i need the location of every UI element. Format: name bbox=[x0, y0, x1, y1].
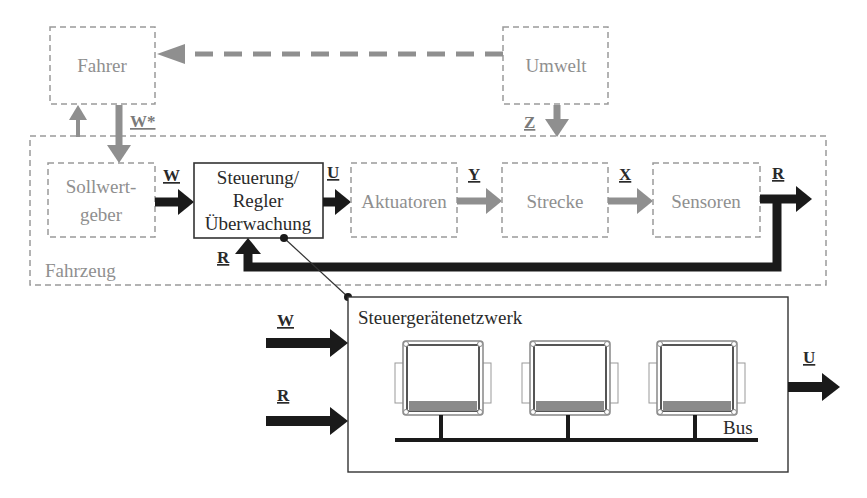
umwelt-label: Umwelt bbox=[525, 55, 587, 76]
sollwertgeber-label-2: geber bbox=[80, 204, 123, 225]
z-arrowhead bbox=[545, 119, 569, 137]
fahrer-label: Fahrer bbox=[77, 55, 127, 76]
ecu-2-icon bbox=[522, 341, 618, 415]
net-r-arrowhead bbox=[330, 407, 348, 435]
u-label: U bbox=[327, 163, 339, 182]
sollwertgeber-label-1: Sollwert- bbox=[66, 176, 137, 197]
steuergeraetenetzwerk-label: Steuergerätenetzwerk bbox=[358, 307, 523, 328]
steuerung-label-2: Regler bbox=[233, 190, 284, 211]
net-r-label: R bbox=[277, 386, 290, 405]
r-feedback-label: R bbox=[217, 248, 230, 267]
x-label: X bbox=[619, 165, 632, 184]
aktuatoren-label: Aktuatoren bbox=[361, 191, 447, 212]
connector-dot-top bbox=[280, 234, 288, 242]
w-star-label: W* bbox=[130, 112, 156, 131]
x-arrowhead bbox=[637, 188, 653, 214]
r-output-label: R bbox=[772, 164, 785, 183]
y-arrowhead bbox=[486, 188, 502, 214]
diagram-canvas: Fahrer Umwelt Fahrzeug W* Z Sollwert- ge… bbox=[0, 0, 867, 498]
bus-label: Bus bbox=[723, 417, 753, 438]
sensoren-label: Sensoren bbox=[671, 191, 741, 212]
w-arrowhead bbox=[178, 189, 194, 215]
ecu-1-icon bbox=[395, 341, 491, 415]
net-w-arrowhead bbox=[330, 329, 348, 357]
z-label: Z bbox=[524, 113, 535, 132]
fahrzeug-label: Fahrzeug bbox=[45, 260, 116, 281]
steuerung-label-1: Steuerung/ bbox=[217, 167, 300, 188]
r-feedback-arrowhead bbox=[235, 238, 261, 254]
fahrzeug-to-fahrer-arrowhead bbox=[69, 105, 87, 120]
umwelt-to-fahrer-arrowhead bbox=[157, 44, 185, 64]
w-star-arrowhead bbox=[107, 145, 131, 163]
y-label: Y bbox=[468, 165, 480, 184]
w-label: W bbox=[163, 166, 180, 185]
net-w-label: W bbox=[277, 311, 294, 330]
r-output-arrowhead bbox=[796, 186, 812, 212]
net-u-label: U bbox=[803, 348, 815, 367]
net-u-arrowhead bbox=[822, 373, 840, 401]
sollwertgeber-block bbox=[48, 163, 155, 237]
u-arrowhead bbox=[335, 189, 351, 215]
strecke-label: Strecke bbox=[527, 191, 584, 212]
steuerung-label-3: Überwachung bbox=[205, 213, 312, 234]
ecu-3-icon bbox=[649, 341, 745, 415]
